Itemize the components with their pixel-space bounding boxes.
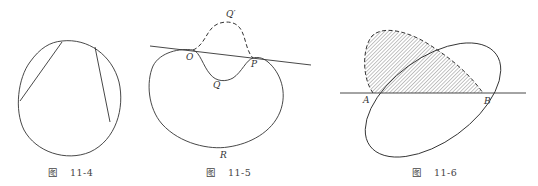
caption-number: 11-4 bbox=[70, 167, 93, 178]
caption-prefix: 图 bbox=[412, 167, 423, 178]
caption-number: 11-6 bbox=[434, 167, 457, 178]
caption-prefix: 图 bbox=[48, 167, 59, 178]
label-R: R bbox=[219, 150, 227, 160]
reflected-arc-OQprimeP bbox=[193, 22, 253, 58]
caption-11-5: 图 11-5 bbox=[206, 167, 251, 178]
caption-number: 11-5 bbox=[228, 167, 251, 178]
label-A: A bbox=[362, 95, 370, 105]
secant-line bbox=[150, 46, 311, 65]
label-O: O bbox=[186, 52, 194, 62]
label-Q: Q bbox=[213, 80, 221, 90]
figure-11-4: 图 11-4 bbox=[18, 41, 120, 178]
caption-11-6: 图 11-6 bbox=[412, 167, 457, 178]
figure-canvas: 图 11-4 O P Q Q′ R 图 11-5 A B 图 bbox=[0, 0, 538, 186]
caption-prefix: 图 bbox=[206, 167, 217, 178]
kidney-curve bbox=[149, 50, 283, 148]
figure-11-5: O P Q Q′ R 图 11-5 bbox=[149, 9, 311, 178]
hatched-region bbox=[355, 25, 490, 95]
chord-left bbox=[20, 42, 62, 101]
label-P: P bbox=[250, 59, 258, 69]
figure-11-6: A B 图 11-6 bbox=[340, 20, 526, 180]
label-Q-prime: Q′ bbox=[226, 9, 235, 19]
chord-right bbox=[95, 47, 110, 122]
caption-11-4: 图 11-4 bbox=[48, 167, 93, 178]
label-B: B bbox=[483, 96, 491, 106]
